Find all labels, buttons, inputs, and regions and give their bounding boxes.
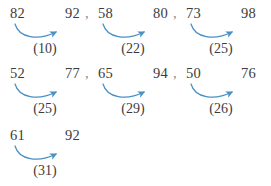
- group-separator: ,: [170, 64, 184, 118]
- jump-group: 5076(26): [184, 64, 258, 118]
- jump-difference-label: (29): [96, 100, 170, 118]
- jump-end-value: 98: [241, 4, 256, 22]
- jump-difference-label: (31): [8, 162, 82, 180]
- jump-group: 7398(25): [184, 4, 258, 58]
- group-separator-comma: ,: [85, 4, 89, 22]
- group-separator-comma: ,: [173, 64, 177, 82]
- jump-end-value: 94: [153, 64, 168, 82]
- group-separator: ,: [82, 64, 96, 118]
- group-separator-comma: ,: [85, 64, 89, 82]
- jump-end-value: 77: [65, 64, 80, 82]
- jump-difference-label: (22): [96, 40, 170, 58]
- jump-endpoints: 6594: [96, 64, 170, 82]
- jump-endpoints: 5880: [96, 4, 170, 22]
- jump-group: 5277(25): [8, 64, 82, 118]
- jump-diagram-sheet: 8292(10),5880(22),7398(25)5277(25),6594(…: [0, 0, 271, 186]
- group-separator: ,: [82, 4, 96, 58]
- jump-end-value: 92: [65, 126, 80, 144]
- jump-end-value: 76: [241, 64, 256, 82]
- jump-start-value: 50: [186, 64, 201, 82]
- jump-difference-label: (10): [8, 40, 82, 58]
- jump-start-value: 82: [10, 4, 25, 22]
- jump-start-value: 58: [98, 4, 113, 22]
- jump-endpoints: 6192: [8, 126, 82, 144]
- jump-row: 5277(25),6594(29),5076(26): [8, 64, 258, 118]
- jump-group: 6192(31): [8, 126, 82, 180]
- jump-row: 8292(10),5880(22),7398(25): [8, 4, 258, 58]
- jump-start-value: 52: [10, 64, 25, 82]
- jump-group: 5880(22): [96, 4, 170, 58]
- jump-start-value: 61: [10, 126, 25, 144]
- jump-difference-label: (26): [184, 100, 258, 118]
- jump-group: 6594(29): [96, 64, 170, 118]
- jump-endpoints: 5277: [8, 64, 82, 82]
- jump-start-value: 65: [98, 64, 113, 82]
- jump-difference-label: (25): [184, 40, 258, 58]
- jump-endpoints: 5076: [184, 64, 258, 82]
- jump-start-value: 73: [186, 4, 201, 22]
- jump-difference-label: (25): [8, 100, 82, 118]
- group-separator-comma: ,: [173, 4, 177, 22]
- jump-endpoints: 7398: [184, 4, 258, 22]
- jump-end-value: 92: [65, 4, 80, 22]
- group-separator: ,: [170, 4, 184, 58]
- jump-endpoints: 8292: [8, 4, 82, 22]
- jump-group: 8292(10): [8, 4, 82, 58]
- jump-end-value: 80: [153, 4, 168, 22]
- jump-row: 6192(31): [8, 126, 82, 180]
